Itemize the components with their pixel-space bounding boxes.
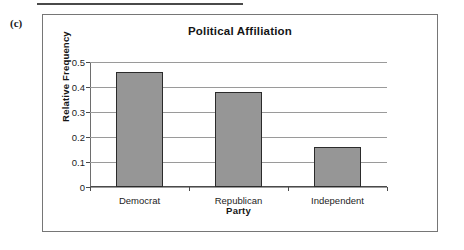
part-label: (c) [10, 17, 22, 29]
x-tick-mark [90, 187, 91, 191]
y-tick-label: 0.5 [72, 57, 85, 68]
plot-area: 00.10.20.30.40.5 DemocratRepublicanIndep… [90, 62, 387, 187]
y-tick-label: 0.2 [72, 132, 85, 143]
y-tick-label: 0.1 [72, 157, 85, 168]
chart-frame: Political Affiliation Relative Frequency… [42, 14, 438, 232]
x-tick-mark [189, 187, 190, 191]
y-tick-label: 0.3 [72, 107, 85, 118]
x-tick-mark [288, 187, 289, 191]
bar-republican [215, 92, 263, 187]
y-tick-label: 0 [80, 182, 85, 193]
x-axis-title: Party [90, 205, 387, 216]
bar-independent [314, 147, 362, 187]
y-axis-title: Relative Frequency [60, 17, 71, 137]
y-tick-label: 0.4 [72, 82, 85, 93]
y-tick-mark [86, 162, 90, 163]
gridline [90, 187, 387, 188]
y-tick-mark [86, 112, 90, 113]
gridline [90, 62, 387, 63]
page-top-rule [37, 3, 243, 5]
y-tick-mark [86, 87, 90, 88]
bar-democrat [116, 72, 164, 187]
y-tick-mark [86, 137, 90, 138]
y-tick-mark [86, 62, 90, 63]
chart-title: Political Affiliation [43, 25, 437, 37]
x-tick-mark [387, 187, 388, 191]
